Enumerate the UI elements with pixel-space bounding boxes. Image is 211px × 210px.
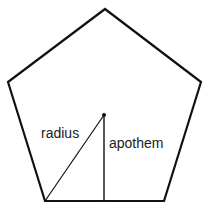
radius-label: radius	[41, 125, 79, 141]
pentagon-diagram: radius apothem	[0, 0, 211, 210]
apothem-label: apothem	[109, 135, 163, 151]
center-point	[102, 113, 106, 117]
